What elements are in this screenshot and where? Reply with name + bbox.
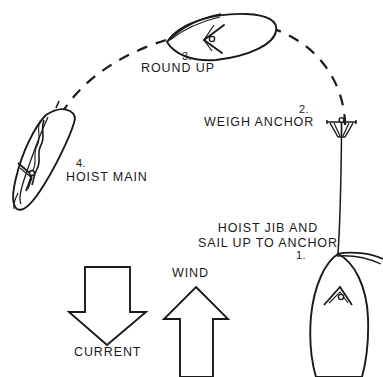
boat-1-hoist-jib (310, 253, 383, 377)
boat-4-hoist-main (13, 101, 75, 210)
current-arrow (69, 267, 146, 345)
step-4-number: 4. (76, 157, 86, 170)
step-2-label: WEIGH ANCHOR (204, 115, 314, 130)
step-4-label: HOIST MAIN (66, 170, 148, 185)
track-dashed-arc-left (60, 40, 166, 116)
step-3-label: ROUND UP (141, 61, 215, 76)
wind-arrow (164, 287, 228, 377)
wind-label: WIND (172, 266, 209, 281)
current-label: CURRENT (74, 345, 141, 360)
sailing-sequence-diagram: 3. ROUND UP 2. WEIGH ANCHOR 4. HOIST MAI… (0, 0, 383, 377)
step-1-label: HOIST JIB AND SAIL UP TO ANCHOR (198, 221, 338, 251)
step-1-number: 1. (296, 249, 306, 262)
anchor-icon (327, 118, 356, 138)
anchor-rode-line (338, 138, 342, 253)
